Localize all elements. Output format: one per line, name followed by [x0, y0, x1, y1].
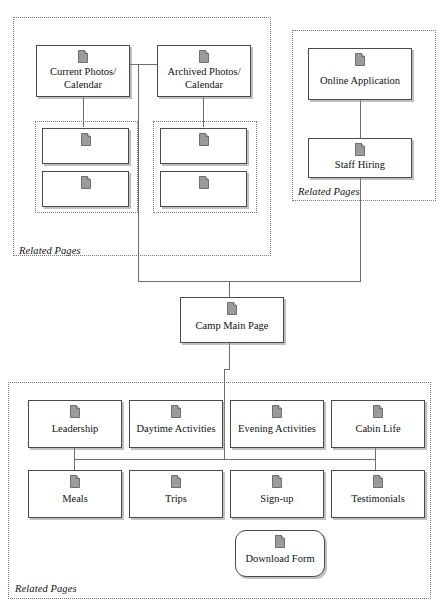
document-icon: [272, 405, 282, 418]
document-icon: [81, 133, 91, 146]
document-icon: [171, 475, 181, 488]
group-label-photos: Related Pages: [19, 245, 81, 256]
document-icon: [272, 475, 282, 488]
node-archived-photos[interactable]: Archived Photos/ Calendar: [157, 45, 251, 97]
document-icon: [78, 50, 88, 63]
node-label: Staff Hiring: [309, 159, 411, 172]
node-signup[interactable]: Sign-up: [230, 470, 324, 518]
document-icon: [70, 405, 80, 418]
node-label: Testimonials: [332, 493, 424, 506]
connector-current-to-children: [83, 97, 84, 127]
node-label: Cabin Life: [332, 423, 424, 436]
node-meals[interactable]: Meals: [28, 470, 122, 518]
node-daytime-activities[interactable]: Daytime Activities: [129, 400, 223, 448]
connector-hiring-to-bus: [360, 178, 361, 281]
document-icon: [355, 53, 365, 66]
node-leadership[interactable]: Leadership: [28, 400, 122, 448]
document-icon: [70, 475, 80, 488]
group-label-camp-pages: Related Pages: [15, 583, 77, 594]
node-archived-child-2[interactable]: [160, 171, 247, 207]
connector-row-bus: [74, 459, 376, 460]
document-icon: [275, 535, 285, 548]
document-icon: [373, 475, 383, 488]
connector-bus-to-main-page: [229, 281, 230, 297]
node-current-child-1[interactable]: [42, 128, 129, 164]
node-evening-activities[interactable]: Evening Activities: [230, 400, 324, 448]
sitemap-diagram: Related Pages Related Pages Related Page…: [0, 0, 446, 607]
connector-archived-to-children: [203, 97, 204, 127]
document-icon: [199, 133, 209, 146]
connector-photos-spine: [138, 64, 139, 281]
node-online-application[interactable]: Online Application: [308, 48, 412, 100]
node-archived-child-1[interactable]: [160, 128, 247, 164]
connector-main-bus: [138, 281, 361, 282]
node-current-photos[interactable]: Current Photos/ Calendar: [36, 45, 130, 97]
node-testimonials[interactable]: Testimonials: [331, 470, 425, 518]
node-label: Camp Main Page: [181, 320, 283, 333]
document-icon: [227, 302, 237, 315]
document-icon: [373, 405, 383, 418]
document-icon: [199, 176, 209, 189]
node-label: Online Application: [309, 75, 411, 88]
document-icon: [199, 50, 209, 63]
connector-application-to-hiring: [360, 100, 361, 138]
group-label-hiring: Related Pages: [298, 186, 360, 197]
node-label: Meals: [29, 493, 121, 506]
node-label: Evening Activities: [231, 423, 323, 436]
node-label: Trips: [130, 493, 222, 506]
node-label: Sign-up: [231, 493, 323, 506]
connector-main-page-down: [229, 343, 230, 369]
node-current-child-2[interactable]: [42, 171, 129, 207]
document-icon: [171, 405, 181, 418]
node-label: Archived Photos/ Calendar: [158, 66, 250, 91]
node-label: Daytime Activities: [130, 423, 222, 436]
node-label: Leadership: [29, 423, 121, 436]
node-cabin-life[interactable]: Cabin Life: [331, 400, 425, 448]
node-staff-hiring[interactable]: Staff Hiring: [308, 138, 412, 178]
document-icon: [81, 176, 91, 189]
node-label: Current Photos/ Calendar: [37, 66, 129, 91]
document-icon: [355, 143, 365, 156]
connector-bus-to-meals: [74, 459, 75, 470]
connector-main-page-to-row: [224, 369, 225, 460]
connector-bus-to-testimonials: [375, 459, 376, 470]
connector-photos-siblings: [130, 64, 159, 65]
node-download-form[interactable]: Download Form: [235, 530, 325, 577]
node-camp-main-page[interactable]: Camp Main Page: [180, 297, 284, 343]
node-trips[interactable]: Trips: [129, 470, 223, 518]
node-label: Download Form: [236, 553, 324, 566]
